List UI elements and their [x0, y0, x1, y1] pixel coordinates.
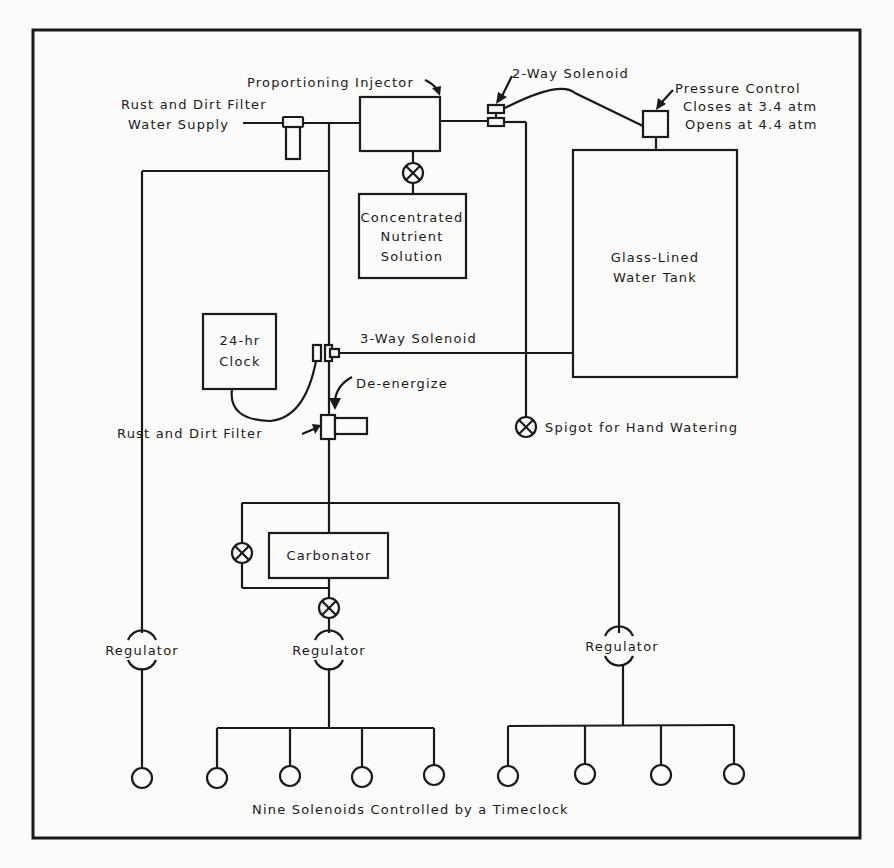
regulator-middle-label: Regulator [292, 643, 366, 658]
solenoid-2-icon [207, 768, 227, 788]
proportioning-injector-box [360, 97, 440, 151]
solenoid-9-icon [724, 764, 744, 784]
three-way-solenoid-icon [313, 345, 339, 361]
clock-box [203, 314, 276, 389]
pressure-closes-label: Closes at 3.4 atm [683, 99, 817, 114]
injector-arrow-icon [425, 80, 441, 96]
pressure-control-label: Pressure Control [675, 81, 801, 96]
carbonator-label: Carbonator [286, 548, 371, 563]
two-way-solenoid-label: 2-Way Solenoid [512, 66, 629, 81]
water-tank-label-2: Water Tank [613, 270, 697, 285]
regulator-left-label: Regulator [105, 643, 179, 658]
filter-mid-arrow-icon [302, 424, 321, 434]
pressure-control-arrow-icon [656, 90, 673, 110]
regulator-right-label: Regulator [585, 639, 659, 654]
pressure-control-box [643, 111, 668, 137]
solenoid-5-icon [424, 765, 444, 785]
solenoid-group [132, 764, 744, 788]
rust-dirt-filter-mid-icon [321, 415, 367, 439]
nutrient-valve-icon [403, 163, 423, 183]
watering-system-diagram: Proportioning Injector Rust and Dirt Fil… [0, 0, 894, 868]
three-way-solenoid-label: 3-Way Solenoid [360, 331, 477, 346]
solenoid-6-icon [498, 766, 518, 786]
spigot-label: Spigot for Hand Watering [545, 420, 738, 435]
pressure-wire [505, 89, 643, 126]
pressure-opens-label: Opens at 4.4 atm [685, 117, 818, 132]
de-energize-arrow-icon [329, 377, 352, 410]
nutrient-solution-label-3: Solution [381, 249, 444, 264]
two-way-solenoid-arrow-icon [496, 76, 512, 104]
de-energize-label: De-energize [356, 376, 448, 391]
water-supply-label: Water Supply [128, 117, 229, 132]
rust-dirt-filter-top-label: Rust and Dirt Filter [121, 97, 267, 112]
solenoid-1-icon [132, 768, 152, 788]
right-distribution-line [508, 664, 734, 766]
solenoid-8-icon [651, 765, 671, 785]
water-tank-label-1: Glass-Lined [611, 250, 699, 265]
proportioning-injector-label: Proportioning Injector [247, 75, 414, 90]
clock-label-1: 24-hr [220, 333, 261, 348]
nutrient-solution-label-1: Concentrated [361, 210, 464, 225]
middle-distribution-line [217, 668, 434, 768]
bypass-valve-icon [232, 543, 252, 563]
solenoid-3-icon [280, 766, 300, 786]
two-way-solenoid-icon [488, 105, 504, 126]
footer-caption: Nine Solenoids Controlled by a Timeclock [252, 802, 569, 817]
solenoid-4-icon [352, 767, 372, 787]
solenoid-7-icon [575, 764, 595, 784]
clock-label-2: Clock [219, 354, 260, 369]
spigot-valve-icon [516, 417, 536, 437]
rust-dirt-filter-top-icon [283, 117, 303, 159]
nutrient-solution-label-2: Nutrient [381, 229, 444, 244]
carbonator-valve-icon [319, 598, 339, 618]
rust-dirt-filter-mid-label: Rust and Dirt Filter [117, 426, 263, 441]
